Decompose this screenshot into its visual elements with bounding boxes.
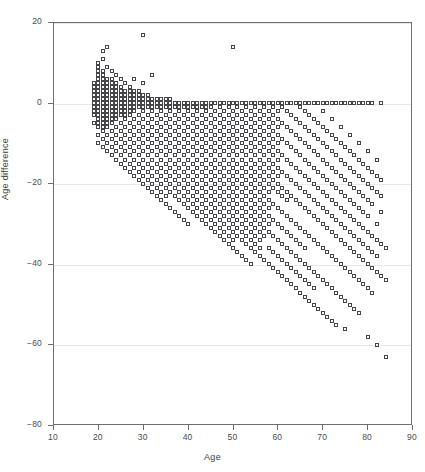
data-point <box>141 81 145 85</box>
data-point <box>375 174 379 178</box>
data-point <box>173 178 177 182</box>
data-point <box>316 101 320 105</box>
data-point <box>244 153 248 157</box>
data-point <box>96 89 100 93</box>
data-point <box>271 266 275 270</box>
data-point <box>222 166 226 170</box>
data-point <box>258 149 262 153</box>
data-point <box>325 194 329 198</box>
data-point <box>213 198 217 202</box>
data-point <box>222 206 226 210</box>
data-point <box>249 174 253 178</box>
data-point <box>227 210 231 214</box>
data-point <box>186 117 190 121</box>
data-point <box>128 129 132 133</box>
data-point <box>303 278 307 282</box>
data-point <box>159 198 163 202</box>
data-point <box>262 258 266 262</box>
data-point <box>276 254 280 258</box>
data-point <box>361 101 365 105</box>
data-point <box>191 202 195 206</box>
data-point <box>384 278 388 282</box>
data-point <box>379 194 383 198</box>
data-point <box>204 149 208 153</box>
data-point <box>235 178 239 182</box>
data-point <box>186 166 190 170</box>
data-point <box>150 141 154 145</box>
data-point <box>155 162 159 166</box>
data-point <box>249 198 253 202</box>
data-point <box>114 73 118 77</box>
x-tick-label: 80 <box>353 433 381 442</box>
data-point <box>235 153 239 157</box>
data-point <box>258 214 262 218</box>
data-point <box>204 109 208 113</box>
data-point <box>231 45 235 49</box>
data-point <box>289 282 293 286</box>
data-point <box>105 133 109 137</box>
data-point <box>222 117 226 121</box>
data-point <box>213 109 217 113</box>
data-point <box>298 242 302 246</box>
data-point <box>101 57 105 61</box>
data-point <box>249 238 253 242</box>
data-point <box>101 85 105 89</box>
data-point <box>253 218 257 222</box>
data-point <box>195 214 199 218</box>
data-point <box>235 250 239 254</box>
data-point <box>128 170 132 174</box>
data-point <box>267 125 271 129</box>
data-point <box>231 246 235 250</box>
data-point <box>222 214 226 218</box>
data-point <box>114 141 118 145</box>
data-point <box>182 121 186 125</box>
data-point <box>321 109 325 113</box>
data-point <box>218 194 222 198</box>
data-point <box>231 198 235 202</box>
data-point <box>294 149 298 153</box>
data-point <box>357 311 361 315</box>
data-point <box>177 141 181 145</box>
data-point <box>128 97 132 101</box>
data-point <box>258 230 262 234</box>
data-point <box>375 270 379 274</box>
data-point <box>334 137 338 141</box>
data-point <box>218 202 222 206</box>
data-point <box>155 121 159 125</box>
data-point <box>200 113 204 117</box>
data-point <box>186 109 190 113</box>
data-point <box>114 97 118 101</box>
data-point <box>249 262 253 266</box>
data-point <box>375 158 379 162</box>
data-point <box>218 170 222 174</box>
data-point <box>222 230 226 234</box>
data-point <box>222 182 226 186</box>
data-point <box>267 149 271 153</box>
data-point <box>191 113 195 117</box>
data-point <box>96 85 100 89</box>
data-point <box>249 190 253 194</box>
data-point <box>119 153 123 157</box>
data-point <box>209 129 213 133</box>
data-point <box>330 133 334 137</box>
data-point <box>298 258 302 262</box>
data-point <box>227 202 231 206</box>
data-point <box>235 170 239 174</box>
data-point <box>168 141 172 145</box>
data-point <box>307 101 311 105</box>
data-point <box>298 170 302 174</box>
data-point <box>244 202 248 206</box>
data-point <box>195 149 199 153</box>
data-point <box>348 133 352 137</box>
data-point <box>343 226 347 230</box>
data-point <box>352 153 356 157</box>
data-point <box>128 153 132 157</box>
data-point <box>195 141 199 145</box>
data-point <box>321 278 325 282</box>
data-point <box>235 226 239 230</box>
data-point <box>182 137 186 141</box>
data-point <box>267 166 271 170</box>
data-point <box>119 85 123 89</box>
data-point <box>200 186 204 190</box>
data-point <box>101 137 105 141</box>
